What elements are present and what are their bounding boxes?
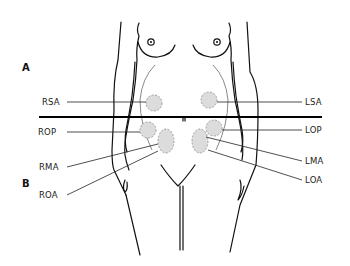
position-lop-marker: [206, 120, 222, 136]
inner-legs: [180, 186, 183, 250]
label-rma: RMA: [39, 162, 59, 172]
right-arm-inner: [233, 62, 243, 152]
position-rop-marker: [140, 122, 156, 138]
left-arm-outer: [112, 22, 126, 195]
position-lsa-marker: [201, 92, 217, 108]
left-breast: [138, 42, 175, 57]
body-outline: [112, 22, 258, 255]
label-lma: LMA: [305, 156, 323, 166]
label-rop: ROP: [38, 127, 56, 137]
left-arm-inner: [125, 62, 135, 152]
leader-loa: [208, 150, 302, 180]
label-lop: LOP: [305, 125, 322, 135]
label-roa: ROA: [39, 190, 58, 200]
pubic-curve: [161, 165, 195, 186]
label-lsa: LSA: [305, 97, 322, 107]
fetal-position-diagram: A B RSA LSA ROP LOP RMA LMA ROA LOA: [0, 0, 350, 266]
position-rsa-marker: [146, 95, 162, 111]
right-abdomen-curve: [213, 65, 228, 150]
position-lma-marker: [192, 129, 208, 153]
leader-lma: [206, 137, 302, 161]
position-rma-marker: [158, 129, 174, 153]
right-arm-outer: [230, 22, 258, 252]
left-hand: [124, 180, 141, 255]
label-loa: LOA: [305, 175, 322, 185]
label-rsa: RSA: [42, 97, 60, 107]
section-label-a: A: [22, 62, 30, 73]
right-breast: [193, 42, 230, 57]
section-label-b: B: [22, 178, 30, 189]
